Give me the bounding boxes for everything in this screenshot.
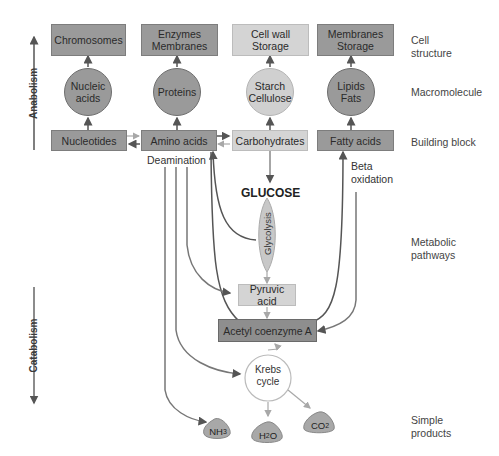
- structure-chromosomes: Chromosomes: [51, 24, 126, 56]
- beta-oxidation-label: Beta oxidation: [351, 160, 393, 186]
- product-h2o: H2O: [253, 428, 283, 442]
- macro-nucleic-acids: Nucleic acids: [64, 68, 112, 116]
- block-nucleotides: Nucleotides: [51, 130, 127, 151]
- row-label-simple-products: Simple products: [411, 414, 451, 440]
- structure-membranes-storage: Membranes Storage: [317, 24, 394, 56]
- pyruvic-acid-box: Pyruvic acid: [238, 284, 296, 306]
- block-carbohydrates: Carbohydrates: [232, 130, 308, 151]
- glycolysis-label: Glycolysis: [262, 204, 273, 264]
- block-fatty-acids: Fatty acids: [317, 130, 394, 151]
- anabolism-label: Anabolism: [28, 64, 39, 124]
- catabolism-label: Catabolism: [28, 316, 39, 376]
- product-nh3: NH3: [204, 424, 232, 438]
- row-label-macromolecule: Macromolecule: [411, 86, 482, 99]
- row-label-metabolic-pathways: Metabolic pathways: [411, 236, 456, 262]
- deamination-label: Deamination: [147, 154, 206, 167]
- glucose-label: GLUCOSE: [241, 186, 300, 200]
- row-label-cell-structure: Cell structure: [411, 34, 452, 60]
- product-co2: CO2: [305, 418, 335, 432]
- macro-proteins: Proteins: [153, 68, 201, 116]
- macro-starch-cellulose: Starch Cellulose: [246, 68, 294, 116]
- row-label-building-block: Building block: [411, 136, 476, 149]
- block-amino-acids: Amino acids: [141, 130, 217, 151]
- acetyl-coa-box: Acetyl coenzyme A: [218, 319, 317, 342]
- structure-cell-wall-storage: Cell wall Storage: [232, 24, 309, 56]
- krebs-cycle-label: Krebs cycle: [245, 364, 291, 388]
- macro-lipids-fats: Lipids Fats: [327, 68, 375, 116]
- structure-enzymes-membranes: Enzymes Membranes: [141, 24, 218, 56]
